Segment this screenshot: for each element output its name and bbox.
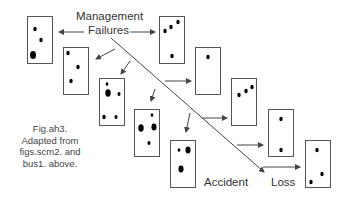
box-frame	[196, 48, 221, 95]
dot	[309, 180, 312, 185]
figure-caption: Fig.ah3. Adapted from figs.scm2. and bus…	[14, 123, 86, 169]
diagram-canvas	[0, 0, 350, 200]
dot	[178, 166, 183, 173]
caption-line-2: Adapted from	[14, 135, 86, 147]
dot	[33, 27, 36, 32]
caption-line-4: bus1. above.	[14, 158, 86, 170]
dot	[178, 148, 181, 152]
arrow-to-box-b	[96, 49, 115, 59]
dot	[117, 92, 120, 96]
state-box-e	[171, 141, 196, 188]
state-box-c	[100, 79, 125, 126]
dot	[206, 55, 209, 60]
dot	[102, 115, 105, 120]
dot	[138, 124, 143, 131]
dot	[169, 25, 172, 30]
arrow-to-box-e	[186, 113, 190, 132]
dot	[279, 117, 282, 122]
dot	[66, 51, 69, 56]
dot	[163, 29, 166, 34]
dot	[315, 148, 318, 153]
box-frame	[171, 141, 196, 188]
caption-line-3: figs.scm2. and	[14, 146, 86, 158]
state-box-i	[269, 110, 294, 157]
dot	[30, 51, 36, 59]
dot	[279, 148, 282, 153]
dot	[76, 65, 79, 70]
accident-label: Accident	[204, 176, 248, 188]
failures-label: Failures	[88, 24, 129, 36]
dot	[105, 89, 110, 96]
state-box-g	[196, 48, 221, 95]
dot	[244, 89, 247, 94]
arrow-to-box-d	[151, 89, 155, 101]
caption-line-1: Fig.ah3.	[14, 123, 86, 135]
box-frame	[135, 110, 160, 157]
dot	[237, 93, 240, 98]
box-frame	[306, 141, 331, 188]
state-box-j	[306, 141, 331, 188]
dot	[106, 82, 109, 86]
loss-label: Loss	[271, 176, 295, 188]
dot	[151, 124, 156, 131]
dot	[69, 79, 72, 84]
dot	[39, 38, 42, 43]
dot	[320, 172, 323, 177]
dot	[114, 115, 117, 119]
state-box-a	[28, 17, 53, 64]
dot	[176, 20, 179, 25]
management-label: Management	[76, 10, 143, 22]
arrow-to-box-c	[121, 61, 130, 74]
dot	[185, 147, 190, 154]
state-box-d	[135, 110, 160, 157]
state-box-b	[64, 48, 89, 95]
dot	[151, 113, 154, 117]
dot	[147, 141, 150, 145]
dot	[170, 54, 173, 59]
state-box-f	[160, 17, 185, 64]
state-box-h	[232, 79, 257, 126]
dot	[250, 85, 253, 90]
